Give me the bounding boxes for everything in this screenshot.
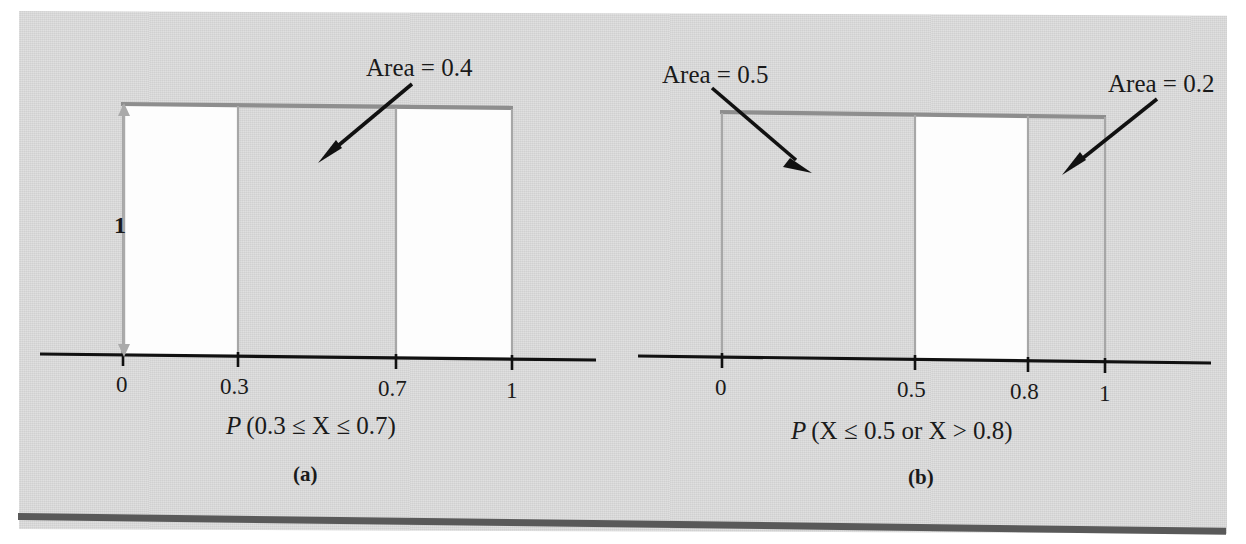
panel-a-area-label: Area = 0.4: [366, 55, 472, 80]
panel-b-id-label: (b): [908, 467, 934, 488]
panel-a-caption: P(0.3 ≤ X ≤ 0.7): [226, 413, 396, 438]
panel-b-tick-label-0: 0: [715, 376, 727, 399]
panel-a-tick-label-3: 1: [506, 379, 518, 402]
panel-b-caption: P(X ≤ 0.5 or X > 0.8): [791, 418, 1013, 443]
panel-a-caption-prefix: P: [226, 412, 241, 439]
panel-b-tick-label-1: 0.5: [897, 378, 926, 401]
panel-b-unshaded-0.5-to-0.8: [915, 115, 1028, 361]
panel-b-area-left-annotation-arrow: [712, 88, 812, 173]
panel-a-id-label: (a): [293, 464, 318, 485]
panel-a-tick-label-0: 0: [116, 373, 128, 396]
panel-b-caption-body: (X ≤ 0.5 or X > 0.8): [811, 417, 1012, 444]
panel-a-caption-body: (0.3 ≤ X ≤ 0.7): [246, 412, 396, 439]
panel-a-unshaded-0-to-0.3: [123, 105, 238, 356]
panel-b-density-line: [720, 112, 1106, 117]
panel-b-tick-label-2: 0.8: [1010, 380, 1039, 403]
panel-b-area-right-label: Area = 0.2: [1108, 71, 1214, 96]
panel-b-caption-prefix: P: [791, 417, 806, 444]
panel-a-height-label: 1: [114, 213, 126, 237]
panel-b-tick-label-3: 1: [1099, 382, 1111, 405]
panel-b-area-right-annotation-arrow: [1062, 99, 1157, 175]
panel-a-tick-label-2: 0.7: [378, 377, 407, 400]
panel-a-tick-label-1: 0.3: [220, 375, 249, 398]
panel-a-unshaded-0.7-to-1: [396, 108, 512, 358]
figure-container: Area = 0.4 1 0 0.3 0.7 1 P(0.3 ≤ X ≤ 0.7…: [0, 0, 1246, 544]
panel-b-graphics: [638, 88, 1211, 373]
panel-b-area-left-label: Area = 0.5: [662, 62, 768, 87]
figure-vector-layer: [0, 0, 1246, 544]
